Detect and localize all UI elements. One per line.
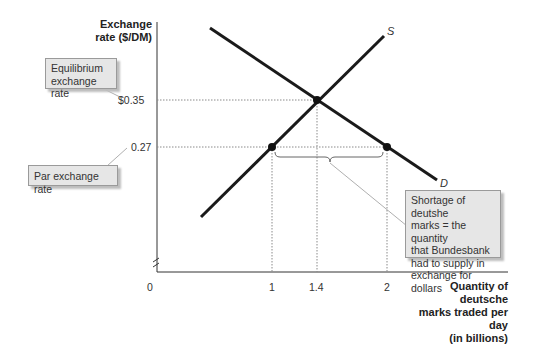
demand-par-point	[383, 143, 391, 151]
supply-par-point	[268, 143, 276, 151]
shortage-line-4: had to supply in	[411, 257, 495, 270]
x-axis-title-line3: (in billions)	[400, 332, 508, 345]
shortage-line-5: exchange for dollars	[411, 269, 495, 294]
equilibrium-callout-line1: Equilibrium	[51, 62, 111, 75]
y-axis-title-line2: rate ($/DM)	[80, 31, 152, 44]
x-tick-origin: 0	[147, 281, 153, 293]
shortage-line-2: marks = the quantity	[411, 219, 495, 244]
y-axis-title-line1: Exchange	[80, 18, 152, 31]
shortage-callout: Shortage of deutshe marks = the quantity…	[405, 190, 501, 258]
x-tick-2: 2	[384, 281, 390, 293]
y-tick-equilibrium: $0.35	[118, 94, 144, 106]
x-axis-title-line2: marks traded per day	[400, 306, 508, 332]
supply-label: S	[387, 25, 394, 37]
shortage-brace	[275, 152, 383, 162]
par-callout-text: Par exchange rate	[34, 170, 112, 195]
y-tick-par: 0.27	[131, 141, 151, 153]
x-tick-1-4: 1.4	[309, 281, 324, 293]
par-callout: Par exchange rate	[28, 165, 118, 186]
equilibrium-callout-line2: exchange rate	[51, 75, 111, 100]
x-tick-1: 1	[269, 281, 275, 293]
shortage-line-1: Shortage of deutshe	[411, 194, 495, 219]
y-axis-title: Exchange rate ($/DM)	[80, 18, 152, 44]
shortage-line-3: that Bundesbank	[411, 244, 495, 257]
equilibrium-callout: Equilibrium exchange rate	[45, 58, 117, 89]
demand-label: D	[440, 177, 448, 189]
axis-break-icon	[153, 258, 159, 267]
guide-lines	[157, 100, 387, 272]
equilibrium-point	[313, 96, 321, 104]
